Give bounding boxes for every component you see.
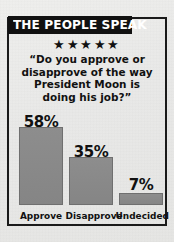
star-icon: ★ <box>53 38 67 52</box>
star-icon: ★ <box>80 38 94 52</box>
page-title: THE PEOPLE SPEAK <box>13 19 147 32</box>
bar-value-label: 7% <box>117 178 165 193</box>
bar-category-label: Undecided <box>116 210 167 221</box>
bar-category-label: Approve <box>16 210 67 221</box>
star-icon: ★ <box>107 38 121 52</box>
star-rating: ★★★★★ <box>0 38 174 52</box>
star-icon: ★ <box>94 38 108 52</box>
bar-approve <box>19 127 63 205</box>
poll-title-banner: THE PEOPLE SPEAK <box>8 16 132 34</box>
bar-category-label: Disapprove <box>66 210 117 221</box>
bar-disapprove <box>69 157 113 205</box>
poll-question-line: doing his job?” <box>16 92 159 105</box>
star-icon: ★ <box>67 38 81 52</box>
poll-bar-chart: 58% Approve 35% Disapprove 7% Undecided <box>9 100 165 224</box>
bar-undecided <box>119 193 163 205</box>
poll-question: “Do you approve or disapprove of the way… <box>12 54 162 104</box>
